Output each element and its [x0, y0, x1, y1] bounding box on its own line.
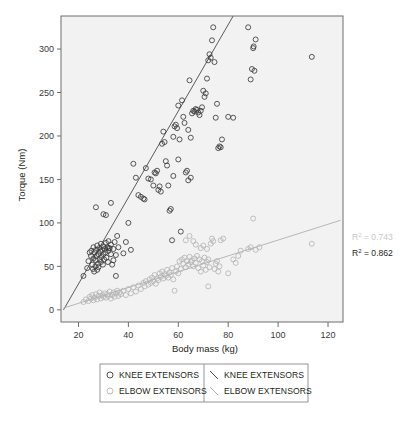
chart-canvas: 050100150200250300 20406080100120 Body m… [0, 0, 410, 422]
y-tick-label: 100 [39, 218, 54, 228]
x-tick-label: 120 [321, 330, 336, 340]
y-tick-label: 250 [39, 88, 54, 98]
r-squared-annotation: R2 = 0.862 [352, 248, 393, 258]
y-tick-label: 300 [39, 44, 54, 54]
y-axis-title: Torque (Nm) [16, 149, 27, 202]
y-tick-label: 200 [39, 131, 54, 141]
legend-marker-label: ELBOW EXTENSORS [119, 386, 207, 396]
x-tick-label: 40 [123, 330, 133, 340]
x-tick-label: 60 [173, 330, 183, 340]
x-tick-label: 80 [223, 330, 233, 340]
y-tick-label: 150 [39, 175, 54, 185]
x-axis-title: Body mass (kg) [172, 343, 238, 354]
x-tick-label: 20 [73, 330, 83, 340]
legend-marker-label: KNEE EXTENSORS [119, 370, 199, 380]
y-tick-label: 50 [44, 262, 54, 272]
plot-background [61, 16, 343, 322]
legend-line-label: KNEE EXTENSORS [224, 370, 304, 380]
y-axis: 050100150200250300 [39, 44, 61, 315]
r-squared-annotations: R2 = 0.743R2 = 0.862 [352, 232, 393, 258]
x-axis: 20406080100120 [73, 322, 335, 340]
r-squared-annotation: R2 = 0.743 [352, 232, 393, 242]
scatter-plot-figure: 050100150200250300 20406080100120 Body m… [0, 0, 410, 422]
y-tick-label: 0 [49, 305, 54, 315]
legend-line-label: ELBOW EXTENSORS [224, 386, 312, 396]
x-tick-label: 100 [271, 330, 286, 340]
